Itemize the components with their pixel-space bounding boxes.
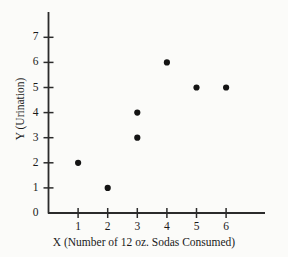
data-point bbox=[134, 135, 140, 141]
x-tick-label: 3 bbox=[130, 221, 144, 233]
data-point bbox=[223, 84, 229, 90]
y-tick-label: 2 bbox=[25, 157, 39, 169]
x-tick-label: 2 bbox=[101, 221, 115, 233]
data-point bbox=[134, 110, 140, 116]
axes bbox=[48, 12, 265, 214]
y-tick-label: 7 bbox=[25, 31, 39, 43]
x-tick-label: 5 bbox=[190, 221, 204, 233]
x-tick-label: 6 bbox=[219, 221, 233, 233]
y-tick-label: 3 bbox=[25, 132, 39, 144]
data-point bbox=[75, 160, 81, 166]
y-tick-label: 0 bbox=[25, 207, 39, 219]
data-point bbox=[164, 59, 170, 65]
data-point bbox=[105, 185, 111, 191]
data-points bbox=[75, 59, 229, 191]
scatter-plot-figure: 01234567 123456 X (Number of 12 oz. Soda… bbox=[0, 0, 288, 257]
y-tick-label: 5 bbox=[25, 82, 39, 94]
y-tick-label: 4 bbox=[25, 107, 39, 119]
data-point bbox=[193, 84, 199, 90]
x-axis-title: X (Number of 12 oz. Sodas Consumed) bbox=[0, 236, 288, 248]
plot-canvas bbox=[0, 0, 288, 257]
y-axis-title: Y (Urination) bbox=[14, 44, 26, 174]
y-tick-label: 6 bbox=[25, 56, 39, 68]
x-tick-label: 4 bbox=[160, 221, 174, 233]
y-tick-label: 1 bbox=[25, 182, 39, 194]
x-tick-label: 1 bbox=[71, 221, 85, 233]
